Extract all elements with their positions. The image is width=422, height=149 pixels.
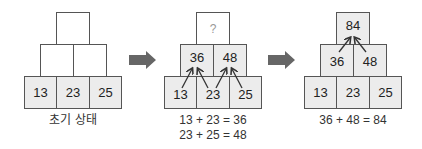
pyramid-bottom-cell: 13 (164, 76, 197, 109)
pyramid-bottom-cell: 25 (89, 76, 122, 109)
pyramid-bottom-cell: 23 (56, 76, 90, 109)
pyramid-middle-cell: 48 (353, 44, 387, 77)
pyramid-top-cell (56, 12, 90, 45)
pyramid-bottom-cell: 23 (196, 76, 230, 109)
equation: 13 + 23 = 36 (163, 113, 263, 128)
pyramid-bottom-cell: 25 (369, 76, 402, 109)
pyramid-top-cell: ? (196, 12, 230, 45)
equation: 36 + 48 = 84 (303, 113, 403, 128)
pyramid-middle-cell (40, 44, 74, 77)
pyramid-middle-cell: 48 (213, 44, 247, 77)
pyramid-bottom-cell: 13 (304, 76, 337, 109)
equation: 23 + 25 = 48 (163, 128, 263, 143)
pyramid-middle-cell: 36 (180, 44, 214, 77)
pyramid-top-cell: 84 (336, 12, 370, 45)
pyramid-bottom-cell: 13 (24, 76, 57, 109)
pyramid-bottom-cell: 23 (336, 76, 370, 109)
pyramid-bottom-cell: 25 (229, 76, 262, 109)
pyramid-middle-cell (73, 44, 107, 77)
panel-caption: 초기 상태 (23, 113, 123, 128)
pyramid-middle-cell: 36 (320, 44, 354, 77)
